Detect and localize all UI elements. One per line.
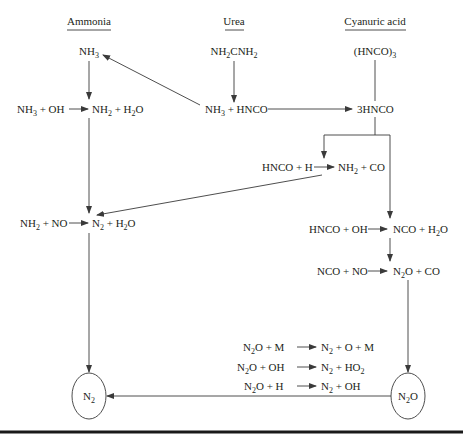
svg-text:Urea: Urea: [223, 15, 244, 27]
reaction-hnco-oh: HNCO + OH NCO + H2O: [309, 223, 448, 238]
reaction-rhs: NH2 + CO: [338, 161, 385, 176]
reaction-n2o-oh: N2O + OH N2 + HO2: [237, 361, 365, 376]
reaction-lhs: N2O + M: [243, 341, 285, 356]
species-nh3: NH3: [79, 45, 99, 60]
reaction-rhs: N2 + H2O: [92, 217, 136, 232]
reaction-lhs: HNCO + H: [262, 161, 313, 173]
header-urea: Urea: [223, 15, 244, 30]
terminal-node-n2: N2: [72, 373, 106, 419]
svg-text:Ammonia: Ammonia: [67, 15, 111, 27]
species-urea: NH2CNH2: [210, 45, 257, 60]
reaction-rhs: NH2 + H2O: [92, 103, 144, 118]
reaction-nco-no: NCO + NO N2O + CO: [317, 265, 440, 280]
header-ammonia: Ammonia: [67, 15, 111, 30]
reaction-pathway-diagram: Ammonia Urea Cyanuric acid NH3 NH2CNH2 (…: [0, 0, 463, 443]
species-cyanuric-acid: (HNCO)3: [354, 45, 397, 60]
reaction-rhs: N2 + HO2: [321, 361, 365, 376]
reaction-rhs: N2 + O + M: [321, 341, 374, 356]
reaction-lhs: HNCO + OH: [309, 223, 368, 235]
arrow-to-nh3: [103, 55, 200, 105]
reaction-rhs: N2O + CO: [393, 265, 440, 280]
reaction-rhs: NCO + H2O: [393, 223, 448, 238]
reaction-lhs: N2O + OH: [237, 361, 285, 376]
reaction-n2o-m: N2O + M N2 + O + M: [243, 341, 374, 356]
species-3hnco: 3HNCO: [357, 103, 394, 115]
arrow-nh2-to-n2: [97, 175, 322, 215]
terminal-node-n2o: N2O: [391, 373, 425, 419]
reaction-nh3-oh: NH3 + OH NH2 + H2O: [17, 103, 144, 118]
reaction-nh2-no: NH2 + NO N2 + H2O: [20, 217, 136, 232]
header-cyanuric-acid: Cyanuric acid: [344, 15, 406, 30]
reaction-lhs: NCO + NO: [317, 265, 368, 277]
reaction-n2o-h: N2O + H N2 + OH: [244, 380, 361, 395]
species-nh3-hnco: NH3 + HNCO: [205, 103, 268, 118]
reaction-rhs: N2 + OH: [321, 380, 361, 395]
reaction-lhs: NH3 + OH: [17, 103, 65, 118]
svg-text:Cyanuric acid: Cyanuric acid: [344, 15, 406, 27]
reaction-lhs: N2O + H: [244, 380, 284, 395]
reaction-lhs: NH2 + NO: [20, 217, 68, 232]
reaction-hnco-h: HNCO + H NH2 + CO: [262, 161, 385, 176]
